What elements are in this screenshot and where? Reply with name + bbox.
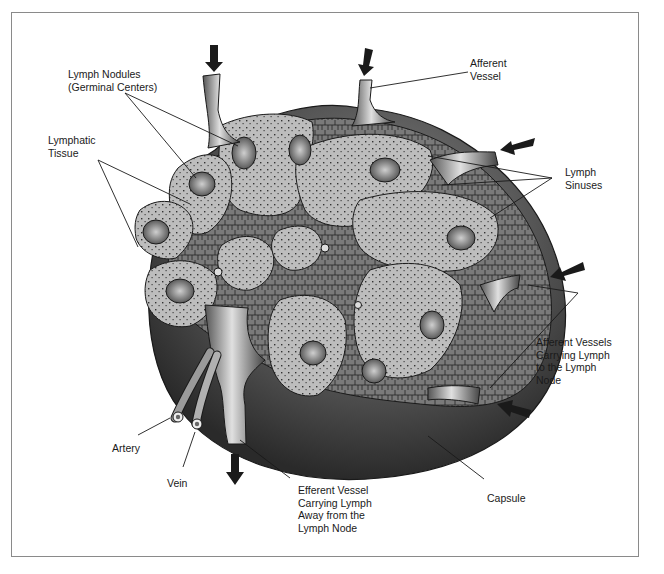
label-line: Away from the [298,509,372,522]
label-line: Tissue [48,147,95,160]
label-lymph-sinuses: Lymph Sinuses [565,166,602,191]
label-line: Carrying Lymph [536,349,612,362]
label-line: Afferent [470,57,507,70]
label-line: Lymph [565,166,602,179]
label-lymphatic-tissue: Lymphatic Tissue [48,134,95,159]
label-afferent-vessels: Afferent Vessels Carrying Lymph to the L… [536,336,612,386]
label-lymph-nodules: Lymph Nodules (Germinal Centers) [68,68,157,93]
label-line: Vessel [470,70,507,83]
label-capsule: Capsule [487,492,526,505]
label-line: Efferent Vessel [298,484,372,497]
label-line: Lymph Node [298,522,372,535]
label-line: Afferent Vessels [536,336,612,349]
label-artery: Artery [112,442,140,455]
label-vein: Vein [167,477,187,490]
label-efferent-vessel: Efferent Vessel Carrying Lymph Away from… [298,484,372,534]
label-line: Sinuses [565,179,602,192]
arrow-down-icon [226,454,244,485]
arrow-down-icon [205,45,223,72]
label-afferent-vessel: Afferent Vessel [470,57,507,82]
label-line: to the Lymph [536,361,612,374]
label-line: Capsule [487,492,526,505]
label-line: Lymphatic [48,134,95,147]
arrow-down-icon [358,48,374,76]
arrow-left-icon [500,138,535,155]
label-line: Node [536,374,612,387]
label-line: Lymph Nodules [68,68,157,81]
label-line: Carrying Lymph [298,497,372,510]
label-line: Vein [167,477,187,490]
label-line: (Germinal Centers) [68,81,157,94]
label-line: Artery [112,442,140,455]
